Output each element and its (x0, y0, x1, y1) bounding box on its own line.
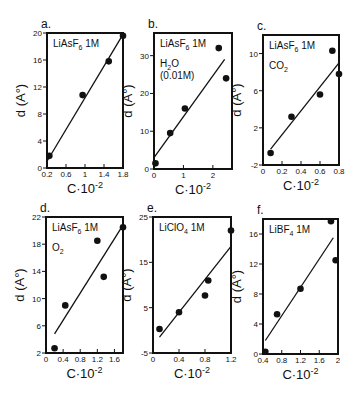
data-point (262, 348, 269, 355)
panel-letter: b. (148, 17, 158, 31)
x-tick-label: 1.2 (92, 355, 104, 364)
y-axis-label: d (A°) (13, 84, 28, 117)
x-tick-label: 1.2 (225, 355, 237, 364)
x-tick-label: 1.2 (295, 356, 307, 365)
chart-panel-a: a.0.20.611.41.8048121620C·10-2d (A°)LiAs… (13, 17, 129, 196)
fit-line (55, 225, 123, 334)
y-tick-label: 16 (249, 230, 258, 239)
data-point (288, 113, 295, 120)
x-tick-label: 1 (83, 170, 88, 179)
data-point (152, 160, 159, 167)
data-point (228, 227, 235, 234)
x-tick-label: 0.4 (58, 355, 70, 364)
data-point (215, 45, 222, 52)
x-tick-label: 1 (181, 171, 186, 180)
data-point (156, 326, 163, 333)
x-tick-label: 0 (152, 171, 157, 180)
x-tick-label: 0.8 (276, 356, 288, 365)
data-point (202, 292, 209, 299)
x-tick-label: 0.4 (295, 167, 307, 176)
data-point (94, 238, 101, 245)
x-axis-label: C·10-2 (282, 366, 318, 382)
data-point (267, 150, 274, 157)
y-tick-label: 20 (140, 89, 149, 98)
y-axis-label: d (A°) (12, 268, 27, 301)
annotation-text: LiBF4 1M (269, 224, 310, 237)
y-tick-label: 22 (32, 213, 41, 222)
panel-letter: c. (257, 19, 266, 33)
y-tick-label: 30 (140, 52, 149, 61)
y-tick-label: 0 (38, 164, 43, 173)
x-axis-label: C·10-2 (67, 180, 103, 196)
y-axis-label: d (A°) (119, 268, 134, 301)
y-tick-label: 10 (32, 295, 41, 304)
y-tick-label: 0 (254, 350, 259, 359)
data-point (79, 92, 86, 99)
data-point (205, 277, 212, 284)
y-tick-label: 6 (254, 87, 259, 96)
y-tick-label: 4 (254, 320, 259, 329)
annotation-text: LiAsF6 1M (53, 38, 99, 51)
fit-line (271, 63, 339, 149)
y-tick-label: 5 (144, 304, 149, 313)
y-tick-label: 20 (33, 29, 42, 38)
panel-letter: a. (41, 17, 51, 31)
fit-line (47, 34, 123, 161)
annotation-text: LiAsF6 1M (269, 40, 315, 53)
data-point (297, 285, 304, 292)
x-tick-label: 0.8 (199, 355, 211, 364)
plot-frame (263, 35, 339, 165)
data-point (51, 345, 58, 352)
plot-frame (154, 33, 232, 169)
y-tick-label: 10 (249, 50, 258, 59)
y-tick-label: 16 (33, 56, 42, 65)
data-point (120, 32, 127, 39)
plot-frame (46, 217, 123, 353)
x-tick-label: 2 (336, 356, 341, 365)
x-tick-label: 0.4 (173, 355, 185, 364)
chart-panel-f: f.0.40.81.21.620481216C·10-2d (A°)LiBF4 … (229, 203, 341, 382)
data-point (62, 302, 69, 309)
y-tick-label: 15 (139, 258, 148, 267)
data-point (274, 311, 281, 318)
y-tick-label: 8 (38, 110, 43, 119)
panel-letter: f. (257, 203, 264, 217)
y-tick-label: 6 (37, 322, 42, 331)
x-tick-label: 1.4 (98, 170, 110, 179)
y-tick-label: 12 (33, 83, 42, 92)
annotation-text: LiAsF6 1M (160, 38, 206, 51)
data-point (328, 218, 335, 225)
y-axis-label: d (A°) (229, 270, 244, 303)
y-axis-label: d (A°) (120, 84, 135, 117)
panel-letter: e. (147, 201, 157, 215)
x-tick-label: 1.6 (314, 356, 326, 365)
x-axis-label: C·10-2 (283, 177, 319, 193)
x-tick-label: 0 (44, 355, 49, 364)
data-point (223, 75, 230, 82)
x-tick-label: 0.8 (75, 355, 87, 364)
data-point (182, 105, 189, 112)
x-tick-label: 1.8 (117, 170, 129, 179)
x-axis-label: C·10-2 (174, 365, 210, 381)
plot-frame (153, 217, 231, 353)
x-tick-label: 0.6 (60, 170, 72, 179)
annotation-text: O2 (52, 242, 64, 255)
data-point (336, 71, 343, 78)
data-point (332, 257, 339, 264)
data-point (46, 153, 53, 160)
x-axis-label: C·10-2 (175, 181, 211, 197)
annotation-text: (0.01M) (160, 70, 194, 81)
y-tick-label: 10 (140, 127, 149, 136)
y-axis-label: d (A°) (229, 83, 244, 116)
x-tick-label: 1.6 (109, 355, 121, 364)
data-point (100, 274, 107, 281)
y-tick-label: 25 (139, 213, 148, 222)
y-tick-label: 0 (145, 165, 150, 174)
y-tick-label: 18 (32, 240, 41, 249)
annotation-text: LiClO4 1M (159, 222, 205, 235)
data-point (120, 224, 127, 231)
chart-panel-c: c.00.20.40.60.8-22610C·10-2d (A°)LiAsF6 … (229, 19, 345, 193)
y-tick-label: 12 (249, 260, 258, 269)
x-tick-label: 0.6 (314, 167, 326, 176)
x-tick-label: 0 (261, 167, 266, 176)
